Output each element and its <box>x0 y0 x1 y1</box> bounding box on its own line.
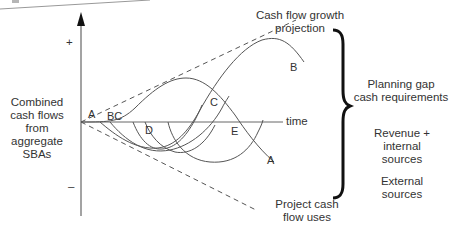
curve-label-D: D <box>145 124 153 136</box>
curve-E <box>168 120 263 162</box>
curve-label-A-end: A <box>267 154 274 166</box>
label-line: cash requirements <box>353 91 449 104</box>
planning-gap-label: Planning gap cash requirements <box>353 78 449 104</box>
time-axis-label: time <box>286 115 308 127</box>
minus-sign: – <box>68 180 74 192</box>
label-line: Planning gap <box>353 78 449 91</box>
left-label-line: Combined <box>2 96 72 109</box>
left-label-line: aggregate <box>2 135 72 148</box>
label-line: sources <box>362 188 442 201</box>
curve-D <box>133 105 202 149</box>
curve-label-E: E <box>231 125 238 137</box>
curve-B <box>100 38 304 148</box>
left-label-line: SBAs <box>2 148 72 161</box>
label-line: internal <box>362 140 442 153</box>
page-edge-line <box>0 0 150 9</box>
curve-label-A: A <box>88 108 95 120</box>
label-line: Cash flow growth <box>240 9 360 22</box>
cash-flow-curves <box>81 38 304 162</box>
label-line: External <box>362 175 442 188</box>
label-line: flow uses <box>262 211 352 224</box>
label-line: Project cash <box>262 198 352 211</box>
curve-label-C: C <box>210 96 218 108</box>
label-line: Revenue + <box>362 127 442 140</box>
label-line: sources <box>362 153 442 166</box>
left-label-line: from <box>2 122 72 135</box>
left-label-line: cash flows <box>2 109 72 122</box>
curve-label-B: B <box>290 61 297 73</box>
y-axis-arrow-icon <box>77 12 85 26</box>
curve-label-BC: BC <box>107 110 122 122</box>
growth-projection-line <box>81 20 296 122</box>
project-uses-line <box>81 122 256 210</box>
project-uses-label: Project cash flow uses <box>262 198 352 224</box>
external-label: External sources <box>362 175 442 201</box>
left-label: Combined cash flows from aggregate SBAs <box>2 96 72 161</box>
bracket-icon <box>333 30 350 198</box>
revenue-label: Revenue + internal sources <box>362 127 442 166</box>
plus-sign: + <box>66 36 73 48</box>
label-line: projection <box>240 22 360 35</box>
growth-projection-label: Cash flow growth projection <box>240 9 360 35</box>
